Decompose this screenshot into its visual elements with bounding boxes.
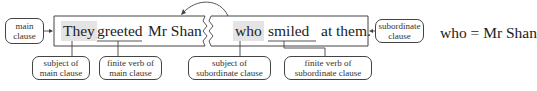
label-line: subordinate clause [295,68,362,78]
main-clause-label: main clause [5,18,44,44]
finite-verb-of-subordinate-clause-label: finite verb of subordinate clause [284,56,372,80]
label-line: finite verb of [305,58,352,68]
label-line: main [16,21,34,31]
label-line: finite verb of [107,58,154,68]
label-line: subject of [43,58,78,68]
label-line: main clause [109,68,152,78]
word-greeted-verb: greeted [97,21,143,41]
subordinate-clause-label: subordinate clause [375,19,424,43]
word-at-them: at them. [321,21,371,41]
subject-of-main-clause-label: subject of main clause [32,56,90,80]
label-line: clause [13,31,36,41]
word-they-subject: They [61,21,97,41]
label-line: subject of [212,58,247,68]
word-who-subject: who [233,21,264,41]
label-line: clause [388,31,411,41]
word-mr-shan: Mr Shan [148,21,202,41]
finite-verb-of-main-clause-label: finite verb of main clause [99,56,162,80]
label-line: main clause [40,68,83,78]
subject-of-subordinate-clause-label: subject of subordinate clause [188,56,271,80]
word-smiled-verb: smiled [268,21,309,41]
label-line: subordinate clause [196,68,263,78]
equation-who-equals-mr-shan: who = Mr Shan [440,23,537,43]
label-line: subordinate [379,21,421,31]
